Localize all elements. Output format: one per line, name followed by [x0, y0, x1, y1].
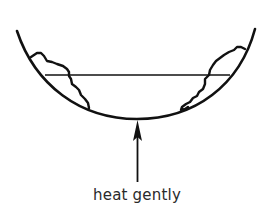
caption-heat-gently: heat gently [0, 186, 270, 204]
heat-arrow-icon [133, 120, 142, 182]
bowl-outline [17, 29, 255, 119]
left-deposit [31, 53, 89, 108]
bowl-heating-diagram [0, 0, 270, 217]
right-deposit [181, 47, 245, 110]
